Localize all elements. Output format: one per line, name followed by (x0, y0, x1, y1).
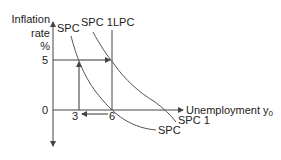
spc-top-label: SPC (57, 22, 80, 34)
y-axis-label-line1: Inflation (11, 13, 50, 25)
spc1-top-label: SPC 1 (81, 16, 113, 28)
y-axis-label-line3: % (40, 40, 50, 52)
y-tick-0: 0 (42, 104, 48, 116)
x-axis-label-subscript: 0 (269, 109, 274, 118)
spc-bottom-label: SPC (158, 124, 181, 136)
phillips-curve-diagram: Inflation rate % 5 0 3 6 SPC SPC 1 LPC S… (0, 0, 281, 160)
x-axis-label: Unemployment y0 (186, 104, 274, 118)
y-axis-label-line2: rate (31, 27, 50, 39)
x-axis-label-main: Unemployment y (186, 104, 269, 116)
lpc-label: LPC (113, 16, 134, 28)
spc1-curve (93, 32, 176, 122)
x-tick-3: 3 (72, 110, 78, 122)
y-tick-5: 5 (42, 54, 48, 66)
